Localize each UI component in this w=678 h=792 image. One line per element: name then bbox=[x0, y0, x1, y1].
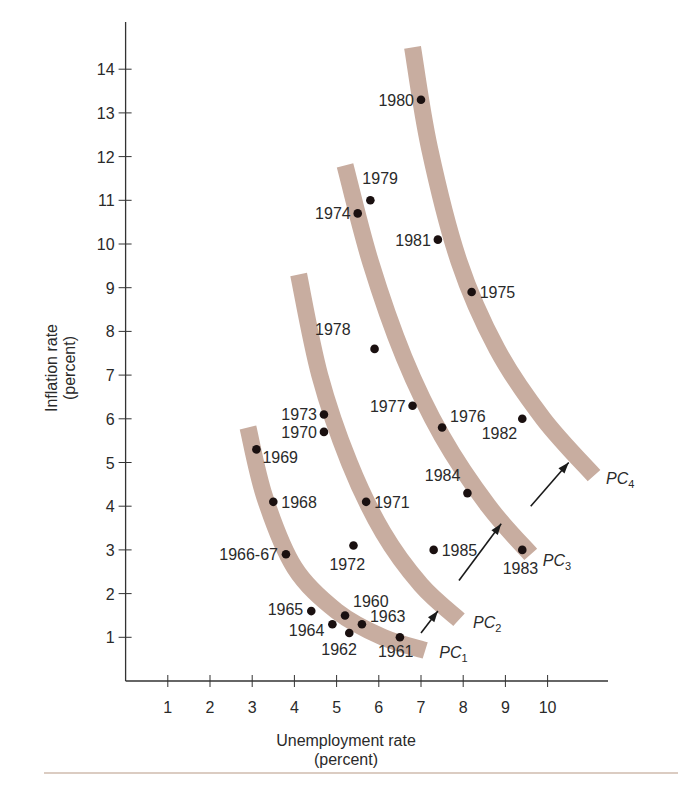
y-tick-label: 14 bbox=[97, 61, 115, 78]
data-point-label: 1973 bbox=[281, 406, 317, 423]
y-tick-label: 5 bbox=[106, 455, 115, 472]
y-tick-label: 1 bbox=[106, 629, 115, 646]
data-point-1970 bbox=[320, 428, 329, 437]
data-point-1977 bbox=[408, 401, 417, 410]
data-point-label: 1972 bbox=[329, 556, 365, 573]
data-point-label: 1982 bbox=[482, 425, 518, 442]
data-point-1971 bbox=[362, 498, 371, 507]
data-point-1969 bbox=[252, 445, 261, 454]
data-point-1965 bbox=[307, 607, 316, 616]
data-point-1964 bbox=[328, 620, 337, 629]
x-tick-label: 1 bbox=[163, 699, 172, 716]
x-tick-label: 4 bbox=[290, 699, 299, 716]
data-point-label: 1970 bbox=[281, 424, 317, 441]
data-point-label: 1962 bbox=[321, 641, 357, 658]
axes bbox=[126, 22, 608, 681]
y-tick-label: 10 bbox=[97, 236, 115, 253]
data-point-1960 bbox=[341, 611, 350, 620]
data-point-label: 1961 bbox=[378, 643, 414, 660]
y-axis-title: Inflation rate bbox=[43, 324, 60, 412]
y-tick-label: 13 bbox=[97, 105, 115, 122]
data-point-label: 1981 bbox=[395, 232, 431, 249]
data-point-1966-67 bbox=[282, 550, 291, 559]
y-tick-label: 2 bbox=[106, 586, 115, 603]
data-point-1963 bbox=[358, 620, 367, 629]
y-tick-label: 12 bbox=[97, 149, 115, 166]
y-tick-label: 11 bbox=[98, 192, 115, 209]
phillips-curve-4 bbox=[413, 47, 594, 475]
x-axis-subtitle: (percent) bbox=[314, 751, 378, 768]
points-layer: 1960196119621963196419651966-67196819691… bbox=[219, 92, 538, 661]
data-point-label: 1985 bbox=[442, 542, 478, 559]
y-tick-label: 3 bbox=[106, 542, 115, 559]
data-point-label: 1966-67 bbox=[219, 546, 278, 563]
shift-arrow-head-icon bbox=[428, 611, 438, 622]
y-axis-subtitle: (percent) bbox=[61, 336, 78, 400]
y-tick-label: 7 bbox=[106, 367, 115, 384]
data-point-1980 bbox=[417, 95, 426, 104]
data-point-1982 bbox=[518, 415, 527, 424]
curve-label-pc1: PC1 bbox=[439, 644, 467, 664]
y-tick-label: 9 bbox=[106, 280, 115, 297]
x-tick-label: 9 bbox=[501, 699, 510, 716]
data-point-label: 1983 bbox=[503, 560, 539, 577]
data-point-label: 1976 bbox=[450, 408, 486, 425]
data-point-1968 bbox=[269, 498, 278, 507]
data-point-label: 1980 bbox=[378, 92, 414, 109]
data-point-1979 bbox=[366, 196, 375, 205]
phillips-curve-chart: PC1PC2PC3PC4 123456789101234567891011121… bbox=[0, 0, 678, 792]
x-tick-label: 10 bbox=[539, 699, 557, 716]
data-point-1985 bbox=[429, 546, 438, 555]
data-point-label: 1975 bbox=[480, 284, 516, 301]
data-point-1961 bbox=[396, 633, 405, 642]
curve-label-pc3: PC3 bbox=[543, 552, 571, 572]
data-point-label: 1965 bbox=[268, 601, 304, 618]
data-point-label: 1974 bbox=[315, 205, 351, 222]
data-point-label: 1978 bbox=[315, 321, 351, 338]
data-point-label: 1964 bbox=[289, 622, 325, 639]
x-axis-title: Unemployment rate bbox=[276, 732, 416, 749]
data-point-label: 1984 bbox=[425, 467, 461, 484]
data-point-1984 bbox=[463, 489, 472, 498]
data-point-1983 bbox=[518, 546, 527, 555]
data-point-1975 bbox=[467, 288, 476, 297]
data-point-1976 bbox=[438, 423, 447, 432]
data-point-1974 bbox=[353, 209, 362, 218]
data-point-label: 1969 bbox=[262, 449, 298, 466]
data-point-1962 bbox=[345, 629, 354, 638]
x-tick-label: 5 bbox=[332, 699, 341, 716]
curve-label-pc4: PC4 bbox=[606, 470, 634, 490]
data-point-1978 bbox=[370, 345, 379, 354]
data-point-label: 1963 bbox=[370, 608, 406, 625]
x-tick-label: 2 bbox=[206, 699, 215, 716]
curve-label-pc2: PC2 bbox=[473, 614, 501, 634]
data-point-label: 1977 bbox=[370, 398, 406, 415]
x-tick-label: 3 bbox=[248, 699, 257, 716]
data-point-1981 bbox=[434, 235, 443, 244]
data-point-label: 1979 bbox=[362, 170, 398, 187]
curves-layer: PC1PC2PC3PC4 bbox=[248, 47, 634, 664]
data-point-1973 bbox=[320, 410, 329, 419]
data-point-label: 1968 bbox=[281, 494, 317, 511]
data-point-1972 bbox=[349, 541, 358, 550]
y-tick-label: 4 bbox=[106, 498, 115, 515]
x-tick-label: 8 bbox=[459, 699, 468, 716]
y-tick-label: 6 bbox=[106, 411, 115, 428]
x-tick-label: 7 bbox=[417, 699, 426, 716]
x-tick-label: 6 bbox=[374, 699, 383, 716]
y-tick-label: 8 bbox=[106, 323, 115, 340]
data-point-label: 1971 bbox=[374, 494, 410, 511]
